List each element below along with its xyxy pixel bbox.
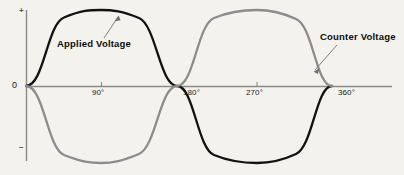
- counter-voltage-label: Counter Voltage: [320, 32, 396, 42]
- x-axis-label-90: 90°: [92, 89, 104, 97]
- x-axis-label-270: 270°: [246, 89, 263, 97]
- x-axis-label-180: 180°: [183, 89, 200, 97]
- x-axis-label-360: 360°: [338, 89, 355, 97]
- y-axis-negative-sign: −: [19, 144, 24, 152]
- applied-voltage-leader: [104, 15, 121, 38]
- counter-voltage-leader: [314, 45, 337, 74]
- voltage-waveform-figure: + − 0 90° 180° 270° 360° Applied Voltage…: [0, 0, 404, 175]
- applied-voltage-label: Applied Voltage: [57, 39, 131, 49]
- y-axis-positive-sign: +: [19, 7, 24, 15]
- origin-label: 0: [12, 81, 17, 90]
